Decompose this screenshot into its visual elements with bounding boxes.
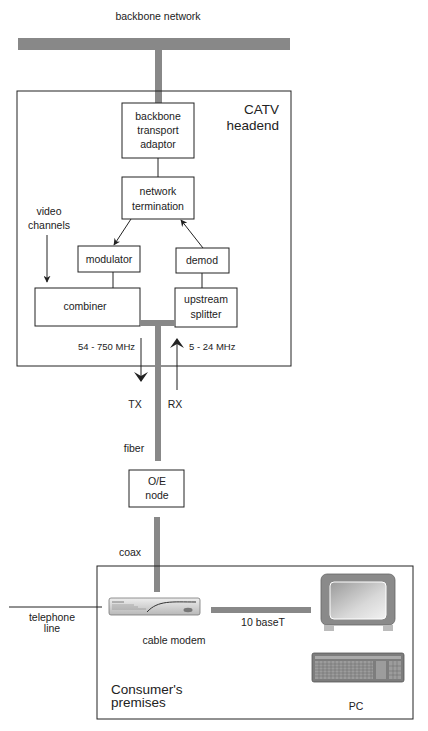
- backbone-drop-pipe: [155, 50, 162, 103]
- svg-text:termination: termination: [132, 200, 184, 212]
- demod-to-termination-arrow: [181, 220, 203, 248]
- upstream-band-label: 5 - 24 MHz: [189, 341, 236, 352]
- network-termination-box: network termination: [122, 177, 194, 219]
- svg-text:demod: demod: [186, 254, 218, 266]
- telephone-label-line2: line: [44, 622, 61, 634]
- video-channels-line1: video: [36, 205, 61, 217]
- svg-text:adaptor: adaptor: [140, 138, 176, 150]
- upstream-splitter-box: upstream splitter: [175, 288, 237, 327]
- fiber-trunk: [155, 320, 161, 461]
- svg-text:upstream: upstream: [184, 293, 228, 305]
- svg-text:network: network: [140, 185, 178, 197]
- demod-box: demod: [176, 248, 229, 273]
- svg-text:node: node: [145, 489, 169, 501]
- svg-text:transport: transport: [137, 124, 179, 136]
- combiner-box: combiner: [35, 288, 140, 326]
- oe-node-box: O/E node: [129, 470, 184, 507]
- headend-title-line2: headend: [226, 118, 279, 133]
- backbone-network-label: backbone network: [115, 10, 201, 22]
- modulator-box: modulator: [78, 246, 140, 272]
- ethernet-pipe: [211, 607, 311, 613]
- ethernet-label: 10 baseT: [241, 616, 285, 628]
- downstream-band-label: 54 - 750 MHz: [78, 341, 135, 352]
- cable-modem-label: cable modem: [142, 634, 205, 646]
- coax-pipe: [154, 517, 160, 592]
- fiber-label: fiber: [124, 442, 145, 454]
- tx-label: TX: [128, 398, 141, 410]
- backbone-transport-adaptor-box: backbone transport adaptor: [122, 103, 194, 158]
- rx-label: RX: [168, 398, 183, 410]
- premises-title-line2: premises: [111, 695, 166, 710]
- headend-title-line1: CATV: [244, 102, 279, 117]
- video-channels-line2: channels: [28, 219, 70, 231]
- svg-text:splitter: splitter: [191, 308, 222, 320]
- svg-text:combiner: combiner: [63, 300, 107, 312]
- pc-label: PC: [349, 700, 364, 712]
- backbone-network-bar: [18, 38, 290, 50]
- svg-text:O/E: O/E: [148, 475, 166, 487]
- termination-to-modulator-arrow: [114, 219, 131, 245]
- svg-text:modulator: modulator: [86, 253, 133, 265]
- monitor-icon: [321, 574, 395, 631]
- cable-modem-icon: [109, 598, 200, 615]
- keyboard-icon: [312, 653, 404, 682]
- coax-label: coax: [119, 546, 142, 558]
- catv-diagram: backbone network CATV headend backbone t…: [0, 0, 428, 731]
- svg-text:backbone: backbone: [135, 110, 181, 122]
